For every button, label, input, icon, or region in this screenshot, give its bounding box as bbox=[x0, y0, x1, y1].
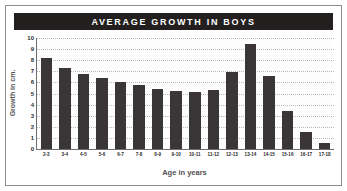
x-axis-tick-label: 17-18 bbox=[319, 152, 331, 157]
bar bbox=[282, 111, 294, 149]
x-axis-tick-label: 5-6 bbox=[99, 152, 106, 157]
y-axis-tick-label: 1 bbox=[31, 135, 34, 141]
bar bbox=[226, 72, 238, 149]
gridline bbox=[37, 38, 334, 39]
x-axis-title: Age in years bbox=[36, 168, 333, 177]
y-axis-title: Growth in cm. bbox=[9, 70, 16, 117]
y-axis-tick-label: 3 bbox=[31, 113, 34, 119]
bar bbox=[170, 91, 182, 149]
x-axis-tick-label: 6-7 bbox=[117, 152, 124, 157]
bar bbox=[152, 89, 164, 149]
bar bbox=[133, 85, 145, 149]
y-axis-tick-label: 7 bbox=[31, 68, 34, 74]
x-axis-tick-label: 2-3 bbox=[43, 152, 50, 157]
y-axis-tick-label: 9 bbox=[31, 46, 34, 52]
bar bbox=[208, 90, 220, 149]
x-axis-tick-label: 11-12 bbox=[208, 152, 220, 157]
bar bbox=[300, 132, 312, 149]
bar bbox=[245, 44, 257, 149]
y-axis-tick-label: 6 bbox=[31, 79, 34, 85]
x-axis-tick-label: 14-15 bbox=[263, 152, 275, 157]
plot-area: 0123456789102-33-44-55-66-77-88-99-1010-… bbox=[36, 38, 334, 150]
chart-figure: AVERAGE GROWTH IN BOYS 0123456789102-33-… bbox=[0, 0, 347, 191]
bar bbox=[189, 92, 201, 149]
x-axis-tick-label: 4-5 bbox=[80, 152, 87, 157]
y-axis-tick-label: 5 bbox=[31, 91, 34, 97]
gridline bbox=[37, 49, 334, 50]
bar bbox=[78, 74, 90, 149]
bar bbox=[319, 143, 331, 149]
y-axis-tick-label: 0 bbox=[31, 146, 34, 152]
gridline bbox=[37, 60, 334, 61]
x-axis-tick-label: 12-13 bbox=[226, 152, 238, 157]
y-axis-tick-label: 10 bbox=[27, 35, 34, 41]
bar bbox=[96, 78, 108, 149]
x-axis-tick-label: 9-10 bbox=[172, 152, 181, 157]
y-axis-tick-label: 2 bbox=[31, 124, 34, 130]
x-axis-tick-label: 15-16 bbox=[282, 152, 294, 157]
x-axis-tick-label: 7-8 bbox=[136, 152, 143, 157]
gridline bbox=[37, 71, 334, 72]
x-axis-tick-label: 16-17 bbox=[300, 152, 312, 157]
x-axis-tick-label: 10-11 bbox=[189, 152, 201, 157]
bar bbox=[59, 68, 71, 149]
plot-wrapper: 0123456789102-33-44-55-66-77-88-99-1010-… bbox=[0, 0, 347, 191]
y-axis-tick-label: 4 bbox=[31, 102, 34, 108]
bar bbox=[41, 58, 53, 149]
bar bbox=[263, 76, 275, 149]
bar bbox=[115, 82, 127, 149]
x-axis-tick-label: 13-14 bbox=[245, 152, 257, 157]
x-axis-tick-label: 3-4 bbox=[62, 152, 69, 157]
y-axis-tick-label: 8 bbox=[31, 57, 34, 63]
x-axis-tick-label: 8-9 bbox=[154, 152, 161, 157]
